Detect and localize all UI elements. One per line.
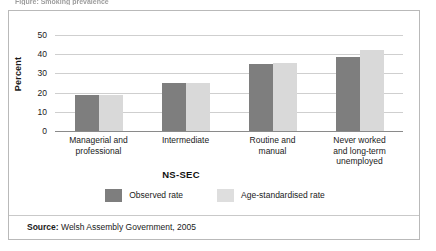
- bar-group: [162, 83, 210, 131]
- clipped-caption: Figure: Smoking prevalence: [15, 0, 147, 5]
- y-tick-label: 10: [25, 108, 47, 116]
- bar-group: [249, 63, 297, 131]
- bar-group: [75, 95, 123, 131]
- y-axis-ticks: 01020304050: [23, 11, 47, 151]
- category-label-line: manual: [259, 146, 287, 156]
- y-tick-label: 40: [25, 50, 47, 58]
- legend-swatch-observed: [105, 189, 122, 202]
- source-text: Welsh Assembly Government, 2005: [59, 222, 196, 232]
- bar: [186, 83, 210, 131]
- bar: [273, 63, 297, 131]
- chart-legend: Observed rateAge-standardised rate: [9, 189, 421, 202]
- category-label-line: Never worked: [333, 135, 385, 145]
- category-label: Routine andmanual: [225, 135, 321, 156]
- gridline: [55, 35, 403, 36]
- source-divider: [9, 215, 419, 216]
- source-line: Source: Welsh Assembly Government, 2005: [27, 222, 196, 232]
- legend-label: Observed rate: [129, 191, 183, 200]
- legend-swatch-agestd: [217, 189, 234, 202]
- legend-item: Age-standardised rate: [217, 189, 325, 202]
- category-label-line: Routine and: [250, 135, 296, 145]
- bar: [99, 95, 123, 131]
- bar: [360, 50, 384, 131]
- figure-frame: 01020304050 Percent NS-SEC Observed rate…: [8, 10, 420, 240]
- legend-item: Observed rate: [105, 189, 183, 202]
- category-label-line: unemployed: [336, 156, 382, 166]
- category-label: Intermediate: [138, 135, 234, 146]
- category-label: Never workedand long-termunemployed: [312, 135, 408, 167]
- source-label: Source:: [27, 222, 59, 232]
- bar: [249, 64, 273, 131]
- x-axis-baseline: [55, 131, 403, 132]
- category-label: Managerial andprofessional: [51, 135, 147, 156]
- y-tick-label: 0: [25, 127, 47, 135]
- bar: [162, 83, 186, 131]
- plot-area: [55, 35, 403, 131]
- x-axis-title: NS-SEC: [121, 169, 241, 180]
- clipped-caption-text: Figure: Smoking prevalence: [15, 0, 147, 5]
- category-label-line: Intermediate: [162, 135, 209, 145]
- category-label-line: and long-term: [333, 146, 385, 156]
- legend-label: Age-standardised rate: [241, 191, 325, 200]
- category-label-line: professional: [76, 146, 122, 156]
- y-tick-label: 30: [25, 69, 47, 77]
- y-tick-label: 50: [25, 31, 47, 39]
- bar: [336, 57, 360, 131]
- category-label-line: Managerial and: [69, 135, 128, 145]
- bar-group: [336, 50, 384, 131]
- y-axis-title: Percent: [13, 57, 23, 91]
- bar: [75, 95, 99, 131]
- y-tick-label: 20: [25, 89, 47, 97]
